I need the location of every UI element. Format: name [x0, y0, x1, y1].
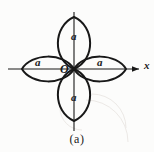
petal-label-right: a: [97, 57, 103, 68]
figure-caption: (a): [0, 132, 154, 147]
petal-label-left: a: [35, 57, 41, 68]
x-axis-label: x: [144, 60, 150, 71]
rose-curve-diagram: [0, 0, 154, 152]
x-axis-arrow-icon: [132, 66, 139, 72]
figure-container: a a a a O x (a): [0, 0, 154, 152]
origin-point: [72, 67, 76, 71]
petal-label-top: a: [71, 31, 77, 42]
origin-label: O: [60, 63, 69, 75]
petal-label-bottom: a: [71, 92, 77, 103]
